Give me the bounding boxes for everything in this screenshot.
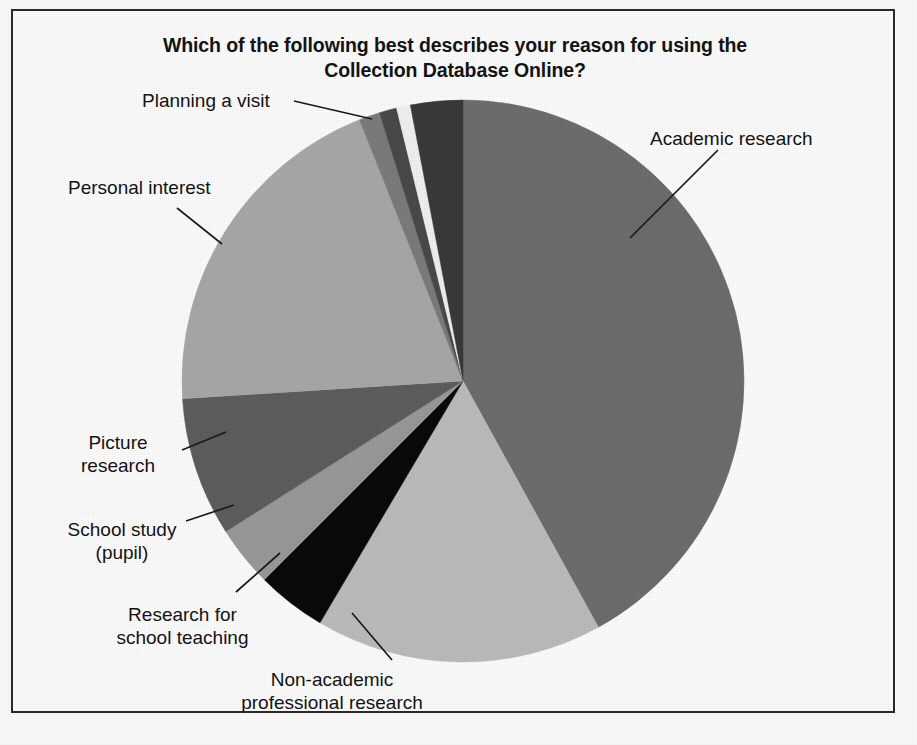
pie-label-academic-research: Academic research [650, 127, 813, 150]
pie-slice-group [182, 100, 744, 662]
pie-label-picture-research: Picture research [38, 431, 198, 477]
leader-line-personal [177, 208, 222, 244]
pie-label-non-academic-research: Non-academic professional research [222, 668, 442, 714]
pie-label-school-study-pupil: School study (pupil) [22, 518, 222, 564]
leader-line-planning [294, 101, 372, 119]
pie-label-planning-a-visit: Planning a visit [142, 89, 270, 112]
figure-container: Which of the following best describes yo… [0, 0, 917, 745]
pie-label-research-for-school-teaching: Research for school teaching [80, 603, 285, 649]
pie-label-personal-interest: Personal interest [68, 176, 211, 199]
